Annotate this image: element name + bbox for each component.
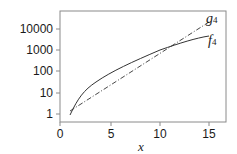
x-tick-label-10: 10: [153, 127, 167, 141]
series-f4-line: [70, 36, 209, 115]
y-tick-label-10: 10: [40, 86, 54, 100]
series-label-f4: f4: [208, 33, 217, 48]
chart-svg: 10000 1000 100 10 1 0 5 10 15 x g4 f4: [0, 0, 237, 154]
g4-label-subscript: 4: [213, 15, 218, 25]
x-tick-label-0: 0: [57, 127, 64, 141]
y-axis: [56, 29, 60, 114]
y-tick-label-100: 100: [33, 64, 53, 78]
x-tick-label-15: 15: [202, 127, 216, 141]
x-axis-title: x: [137, 139, 144, 154]
series-label-g4: g4: [206, 11, 218, 26]
g4-label-base: g: [206, 11, 213, 26]
series-g4-line: [70, 22, 209, 111]
y-tick-label-10000: 10000: [20, 22, 54, 36]
y-tick-label-1000: 1000: [26, 43, 53, 57]
x-tick-label-5: 5: [108, 127, 115, 141]
x-axis: [60, 122, 209, 126]
y-tick-label-1: 1: [46, 107, 53, 121]
f4-label-subscript: 4: [212, 37, 217, 47]
plot-frame: [60, 11, 226, 122]
